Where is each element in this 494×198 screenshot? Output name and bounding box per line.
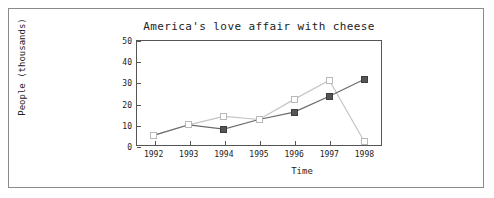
figure-container: America's love affair with cheese People… (0, 0, 494, 198)
x-axis-tick-mark (190, 141, 191, 145)
y-axis-tick-mark (137, 105, 141, 106)
chart-area: America's love affair with cheese People… (0, 0, 494, 198)
x-axis-tick-label: 1996 (285, 150, 304, 159)
data-point-marker (291, 109, 298, 116)
x-axis-tick-mark (330, 141, 331, 145)
x-axis-tick-label: 1997 (320, 150, 339, 159)
x-axis-tick-mark (225, 141, 226, 145)
x-axis-tick-mark (260, 141, 261, 145)
y-axis-tick-mark (137, 62, 141, 63)
y-axis-tick-label: 0 (127, 143, 132, 152)
x-axis-tick-mark (155, 141, 156, 145)
y-axis-tick-label: 20 (122, 100, 132, 109)
y-axis-tick-mark (137, 126, 141, 127)
x-axis-tick-label: 1992 (144, 150, 163, 159)
data-point-marker (361, 76, 368, 83)
data-point-marker (220, 126, 227, 133)
x-axis-tick-label: 1994 (214, 150, 233, 159)
data-point-marker (256, 116, 263, 123)
data-point-marker (291, 96, 298, 103)
y-axis-tick-mark (137, 83, 141, 84)
data-point-marker (220, 113, 227, 120)
x-axis-tick-label: 1995 (249, 150, 268, 159)
data-point-marker (326, 93, 333, 100)
x-axis-tick-label: 1998 (355, 150, 374, 159)
y-axis-tick-label: 50 (122, 37, 132, 46)
y-axis-tick-mark (137, 147, 141, 148)
x-axis-tick-mark (295, 141, 296, 145)
data-point-marker (326, 77, 333, 84)
y-axis-tick-label: 40 (122, 58, 132, 67)
plot-frame: 01020304050 (136, 40, 382, 146)
y-axis-tick-label: 30 (122, 79, 132, 88)
data-point-marker (150, 132, 157, 139)
data-point-marker (361, 138, 368, 145)
y-axis-tick-mark (137, 41, 141, 42)
data-point-marker (185, 121, 192, 128)
y-axis-tick-label: 10 (122, 121, 132, 130)
x-axis-tick-label: 1993 (179, 150, 198, 159)
